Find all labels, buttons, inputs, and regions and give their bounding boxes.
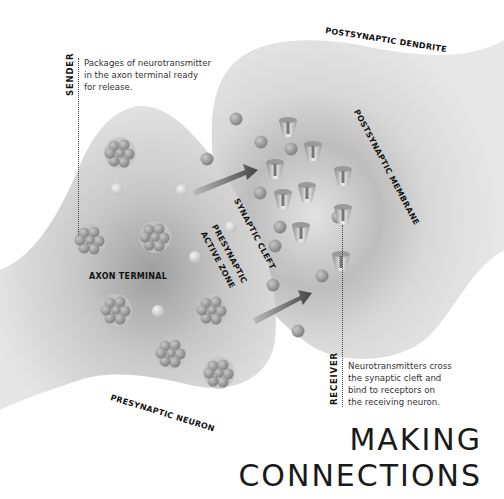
sender-description: Packages of neurotransmitter in the axon…	[84, 57, 211, 93]
sender-label: SENDER	[65, 53, 75, 96]
label-axon-terminal: AXON TERMINAL	[89, 272, 167, 281]
page-title: MAKING CONNECTIONS	[238, 422, 482, 494]
receiver-label: RECEIVER	[329, 352, 339, 405]
sender-leader-line	[78, 58, 79, 236]
receiver-description: Neurotransmitters cross the synaptic cle…	[348, 360, 452, 408]
title-line-2: CONNECTIONS	[238, 458, 482, 494]
receiver-leader-line	[342, 225, 343, 407]
title-line-1: MAKING	[238, 422, 482, 458]
